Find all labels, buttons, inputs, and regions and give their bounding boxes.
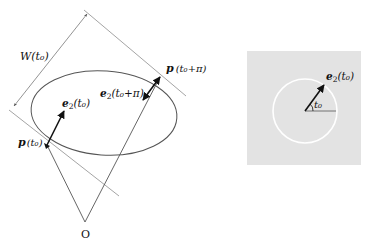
right-diagram: e2(t₀) t₀ <box>247 51 361 165</box>
width-label: W(t₀) <box>20 50 49 63</box>
p-t0-label: p(t₀) <box>18 136 43 149</box>
e2-t0-label: e2(t₀) <box>62 97 90 111</box>
position-vector-p-t0 <box>47 145 85 222</box>
p-t0pi-label: p(t₀+π) <box>166 62 207 75</box>
tangent-line-upper <box>84 10 186 96</box>
convex-curve-width-diagram: W(t₀) p(t₀+π) e2(t₀+π) e2(t₀) p(t₀) O e2… <box>0 0 374 249</box>
right-e2-label: e2(t₀) <box>326 70 354 84</box>
angle-label: t₀ <box>314 99 322 110</box>
unit-circle-background <box>247 51 361 165</box>
e2-t0-vector <box>47 111 64 145</box>
e2-t0pi-label: e2(t₀+π) <box>100 87 144 101</box>
left-diagram: W(t₀) p(t₀+π) e2(t₀+π) e2(t₀) p(t₀) O <box>9 10 207 241</box>
tangent-line-lower <box>9 110 119 196</box>
origin-label: O <box>81 228 90 241</box>
